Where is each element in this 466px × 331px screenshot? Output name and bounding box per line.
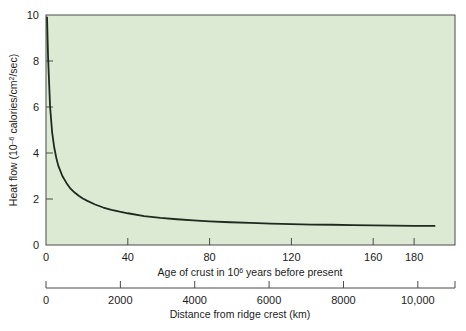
- secondary-x-tick-label: 0: [43, 294, 49, 306]
- heat-flow-chart: 0246810 04080120160180 02000400060008000…: [0, 0, 466, 331]
- secondary-x-tick-label: 10,000: [401, 294, 435, 306]
- x-tick-label: 120: [282, 251, 300, 263]
- y-tick-label: 2: [33, 193, 39, 205]
- y-tick-label: 4: [33, 147, 39, 159]
- secondary-x-tick-label: 2000: [108, 294, 132, 306]
- x-tick-label: 40: [122, 251, 134, 263]
- x-tick-label: 160: [364, 251, 382, 263]
- secondary-x-tick-label: 8000: [331, 294, 355, 306]
- x-axis-title: Age of crust in 106 years before present: [158, 266, 343, 278]
- y-axis-title: Heat flow (10–6 calories/cm2/sec): [7, 54, 19, 206]
- y-tick-label: 10: [27, 9, 39, 21]
- secondary-x-tick-label: 6000: [257, 294, 281, 306]
- x-tick-label: 180: [405, 251, 423, 263]
- secondary-x-axis-title: Distance from ridge crest (km): [170, 308, 311, 320]
- secondary-x-tick-label: 4000: [182, 294, 206, 306]
- x-tick-label: 80: [203, 251, 215, 263]
- x-axis-distance: 0200040006000800010,000: [43, 281, 455, 306]
- x-tick-label: 0: [43, 251, 49, 263]
- y-tick-label: 0: [33, 239, 39, 251]
- y-tick-label: 6: [33, 101, 39, 113]
- plot-background: [46, 15, 455, 245]
- y-tick-label: 8: [33, 55, 39, 67]
- figure-container: 0246810 04080120160180 02000400060008000…: [0, 0, 466, 331]
